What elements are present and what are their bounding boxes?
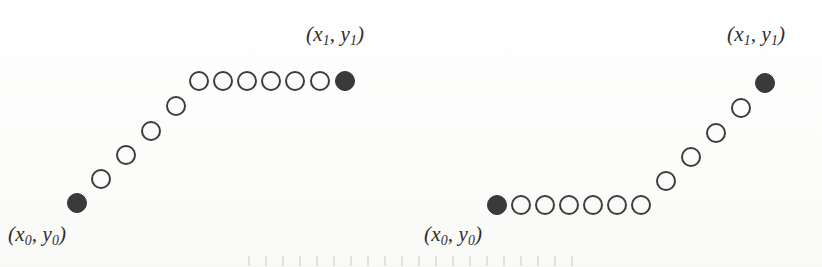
close-paren: ) bbox=[778, 22, 785, 46]
y-variable: y bbox=[459, 222, 469, 246]
left-pixel-marker bbox=[116, 145, 136, 165]
right-pixel-marker bbox=[631, 195, 651, 215]
left-pixel-marker bbox=[237, 71, 257, 91]
left-pixel-marker bbox=[261, 71, 281, 91]
x-variable: x bbox=[15, 222, 25, 246]
x-subscript: 0 bbox=[441, 233, 448, 248]
x-subscript: 0 bbox=[25, 233, 32, 248]
close-paren: ) bbox=[59, 222, 68, 246]
y-variable: y bbox=[762, 22, 772, 46]
right-pixel-marker bbox=[511, 195, 531, 215]
left-pixel-marker bbox=[189, 71, 209, 91]
left-pixel-marker bbox=[166, 96, 186, 116]
left-pixel-marker bbox=[285, 71, 305, 91]
right-pixel-marker bbox=[706, 123, 726, 143]
x-subscript: 1 bbox=[323, 33, 330, 48]
left-end-coordinate-label: (x1, y1) bbox=[306, 22, 364, 49]
right-start-endpoint-marker bbox=[487, 195, 507, 215]
comma-separator: , bbox=[330, 22, 341, 46]
right-pixel-marker bbox=[681, 147, 701, 167]
comma-separator: , bbox=[751, 22, 762, 46]
comma-separator: , bbox=[448, 222, 459, 246]
right-pixel-marker bbox=[607, 195, 627, 215]
figure-canvas: (x0, y0)(x1, y1)(x0, y0)(x1, y1) bbox=[0, 0, 822, 267]
left-pixel-marker bbox=[141, 121, 161, 141]
y-subscript: 0 bbox=[52, 233, 59, 248]
left-start-endpoint-marker bbox=[67, 193, 87, 213]
left-end-endpoint-marker bbox=[335, 71, 355, 91]
close-paren: ) bbox=[357, 22, 364, 46]
close-paren: ) bbox=[475, 222, 484, 246]
y-subscript: 1 bbox=[350, 33, 357, 48]
right-end-endpoint-marker bbox=[755, 73, 775, 93]
x-variable: x bbox=[313, 22, 323, 46]
y-variable: y bbox=[341, 22, 351, 46]
left-pixel-marker bbox=[213, 71, 233, 91]
right-pixel-marker bbox=[731, 98, 751, 118]
y-subscript: 1 bbox=[771, 33, 778, 48]
left-pixel-marker bbox=[91, 169, 111, 189]
y-subscript: 0 bbox=[468, 233, 475, 248]
left-start-coordinate-label: (x0, y0) bbox=[8, 222, 68, 249]
left-pixel-marker bbox=[310, 71, 330, 91]
right-end-coordinate-label: (x1, y1) bbox=[727, 22, 785, 49]
right-pixel-marker bbox=[535, 195, 555, 215]
x-variable: x bbox=[431, 222, 441, 246]
comma-separator: , bbox=[32, 222, 43, 246]
right-start-coordinate-label: (x0, y0) bbox=[424, 222, 484, 249]
y-variable: y bbox=[43, 222, 53, 246]
right-pixel-marker bbox=[583, 195, 603, 215]
x-subscript: 1 bbox=[744, 33, 751, 48]
right-pixel-marker bbox=[656, 171, 676, 191]
x-variable: x bbox=[734, 22, 744, 46]
right-pixel-marker bbox=[559, 195, 579, 215]
